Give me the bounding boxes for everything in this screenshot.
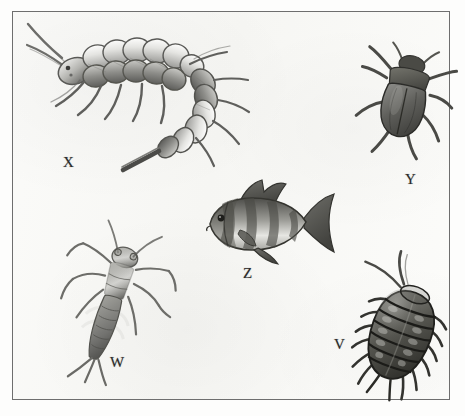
specimen-y-water-beetle [352,44,457,164]
specimen-z-banded-fish [196,176,346,271]
caudal-fin [304,194,334,252]
specimen-x-alderfly-larva [18,14,268,189]
anal-fin [254,248,278,264]
specimen-label-z: Z [243,266,252,281]
specimen-label-x: X [63,155,74,170]
eye [218,215,225,222]
antennae [27,24,66,69]
illustration-plate: X Y Z W V [0,0,465,416]
legs [51,80,164,123]
terminal-filament [122,148,159,170]
specimen-v-aquatic-sowbug [340,256,460,406]
eye [66,66,71,71]
specimen-label-v: V [334,337,345,352]
tail-filaments [68,353,112,388]
mouth [207,226,210,231]
specimen-label-y: Y [405,172,416,187]
specimen-label-w: W [110,355,124,370]
